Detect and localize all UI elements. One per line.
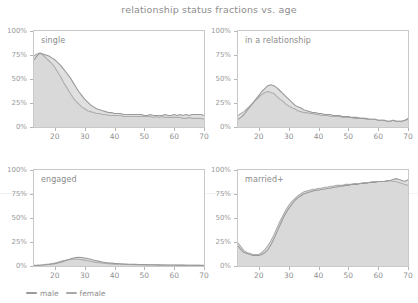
panel-single-xtick (85, 128, 86, 131)
panel-in-a-relationship-xtick-label: 60 (373, 132, 383, 141)
panel-married-plus-xtick-label: 30 (284, 271, 294, 280)
panel-in-a-relationship-ytick-label: 75% (205, 51, 231, 59)
panel-married-plus-label: married+ (245, 175, 284, 184)
panel-single-ytick-label: 75% (1, 51, 27, 59)
panel-single-xtick (174, 128, 175, 131)
panel-married-plus-ytick-label: 100% (205, 166, 231, 174)
panel-engaged-xtick-label: 20 (50, 271, 60, 280)
panel-engaged-xtick-label: 70 (199, 271, 209, 280)
panel-married-plus-ytick-label: 75% (205, 190, 231, 198)
panel-engaged-xtick (144, 267, 145, 270)
panel-in-a-relationship-xtick (378, 128, 379, 131)
panel-single-ytick (30, 31, 33, 32)
panel-in-a-relationship: in a relationship0%25%50%75%100%20304050… (237, 30, 409, 128)
legend-item-female[interactable]: female (66, 290, 106, 298)
panel-married-plus-ytick-label: 50% (205, 214, 231, 222)
panel-married-plus-xtick (289, 267, 290, 270)
legend-item-male[interactable]: male (26, 290, 59, 298)
panel-engaged-ytick-label: 100% (1, 166, 27, 174)
panel-engaged-label: engaged (41, 175, 77, 184)
panel-engaged-ytick (30, 266, 33, 267)
panel-single-xtick-label: 70 (199, 132, 209, 141)
figure-title: relationship status fractions vs. age (0, 4, 418, 15)
panel-married-plus-xtick (378, 267, 379, 270)
legend-label-male: male (40, 290, 59, 298)
panel-married-plus-xtick-label: 50 (344, 271, 354, 280)
panel-engaged-xtick-label: 40 (110, 271, 120, 280)
panel-engaged-ytick (30, 218, 33, 219)
panel-single-xtick (144, 128, 145, 131)
panel-single-xtick-label: 30 (80, 132, 90, 141)
panel-single-xtick-label: 20 (50, 132, 60, 141)
panel-in-a-relationship-xtick-label: 50 (344, 132, 354, 141)
panel-married-plus: married+0%25%50%75%100%203040506070 (237, 169, 409, 267)
panel-engaged-xtick (174, 267, 175, 270)
panel-in-a-relationship-ytick (234, 103, 237, 104)
panel-in-a-relationship-xtick (348, 128, 349, 131)
panel-single-xtick-label: 50 (140, 132, 150, 141)
panel-in-a-relationship-ytick-label: 50% (205, 75, 231, 83)
panel-engaged-xtick (85, 267, 86, 270)
panel-engaged-xtick-label: 30 (80, 271, 90, 280)
panel-in-a-relationship-xtick (259, 128, 260, 131)
panel-single: single0%25%50%75%100%203040506070 (33, 30, 205, 128)
legend-swatch-female (66, 292, 77, 294)
panel-in-a-relationship-xtick-label: 30 (284, 132, 294, 141)
panel-married-plus-xtick (408, 267, 409, 270)
panel-married-plus-ytick-label: 25% (205, 238, 231, 246)
panel-engaged-ytick-label: 25% (1, 238, 27, 246)
panel-married-plus-ytick (234, 170, 237, 171)
panel-married-plus-xtick-label: 70 (403, 271, 413, 280)
panel-single-ytick-label: 25% (1, 99, 27, 107)
panel-married-plus-xtick-label: 60 (373, 271, 383, 280)
panel-in-a-relationship-xtick (289, 128, 290, 131)
panel-engaged-ytick-label: 0% (1, 262, 27, 270)
panel-in-a-relationship-ytick (234, 127, 237, 128)
figure-root: relationship status fractions vs. age si… (0, 0, 418, 303)
panel-single-ytick (30, 127, 33, 128)
panel-married-plus-xtick (319, 267, 320, 270)
panel-single-ytick (30, 103, 33, 104)
panel-engaged-ytick-label: 75% (1, 190, 27, 198)
panel-engaged-ytick (30, 170, 33, 171)
panel-engaged-xtick (115, 267, 116, 270)
panel-single-xtick-label: 60 (169, 132, 179, 141)
panel-single-ytick-label: 100% (1, 27, 27, 35)
panel-in-a-relationship-ytick-label: 0% (205, 123, 231, 131)
panel-married-plus-ytick-label: 0% (205, 262, 231, 270)
panel-engaged-ytick (30, 242, 33, 243)
panel-in-a-relationship-label: in a relationship (245, 36, 311, 45)
panel-engaged-xtick-label: 50 (140, 271, 150, 280)
panel-married-plus-ytick (234, 218, 237, 219)
panel-single-ytick (30, 79, 33, 80)
panel-engaged-xtick-label: 60 (169, 271, 179, 280)
legend: male female (26, 290, 105, 298)
panel-in-a-relationship-ytick (234, 55, 237, 56)
panel-in-a-relationship-ytick-label: 25% (205, 99, 231, 107)
panel-single-xtick-label: 40 (110, 132, 120, 141)
panel-engaged-ytick-label: 50% (1, 214, 27, 222)
panel-married-plus-xtick-label: 20 (254, 271, 264, 280)
panel-in-a-relationship-xtick (408, 128, 409, 131)
panel-in-a-relationship-ytick (234, 31, 237, 32)
panel-single-xtick (115, 128, 116, 131)
legend-label-female: female (80, 290, 106, 298)
panel-in-a-relationship-ytick (234, 79, 237, 80)
panel-married-plus-ytick (234, 194, 237, 195)
panel-married-plus-ytick (234, 242, 237, 243)
panel-single-ytick-label: 0% (1, 123, 27, 131)
panel-in-a-relationship-xtick (319, 128, 320, 131)
panel-married-plus-xtick (348, 267, 349, 270)
panel-married-plus-xtick-label: 40 (314, 271, 324, 280)
panel-in-a-relationship-xtick-label: 20 (254, 132, 264, 141)
panel-in-a-relationship-xtick-label: 40 (314, 132, 324, 141)
panel-married-plus-ytick (234, 266, 237, 267)
legend-swatch-male (26, 292, 37, 294)
panel-single-xtick (55, 128, 56, 131)
panel-single-label: single (41, 36, 65, 45)
panel-married-plus-xtick (259, 267, 260, 270)
panel-single-ytick-label: 50% (1, 75, 27, 83)
panel-engaged: engaged0%25%50%75%100%203040506070 (33, 169, 205, 267)
panel-engaged-xtick (55, 267, 56, 270)
panel-in-a-relationship-xtick-label: 70 (403, 132, 413, 141)
